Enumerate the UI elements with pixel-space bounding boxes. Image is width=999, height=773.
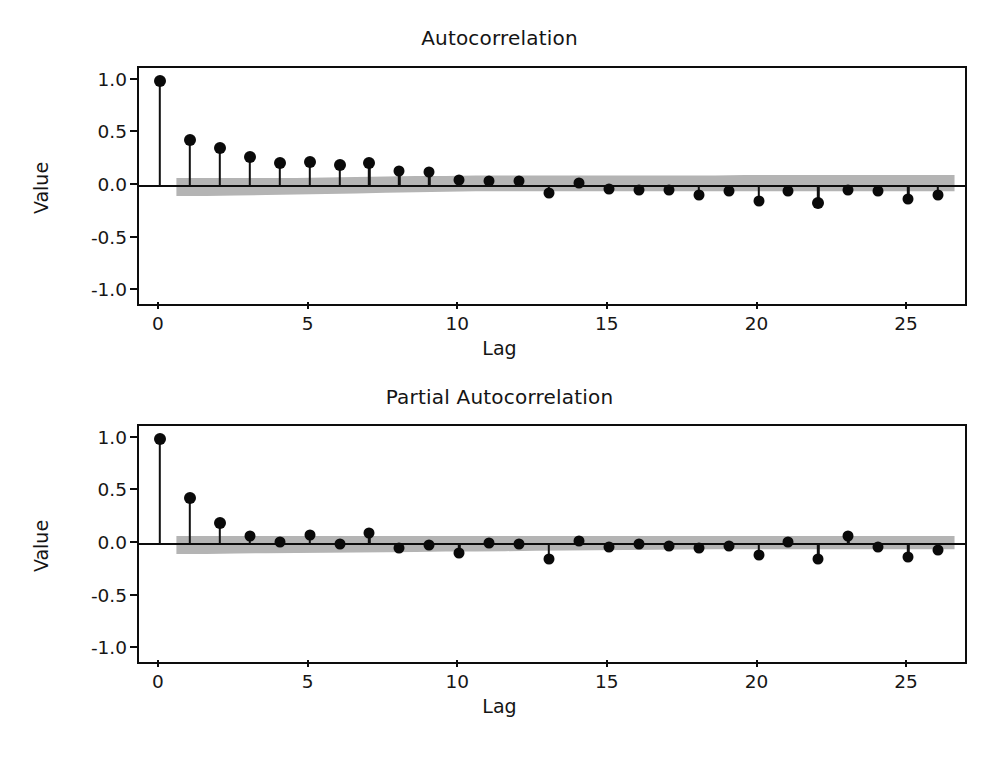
y-tick-mark xyxy=(130,541,137,543)
data-point xyxy=(723,186,734,197)
x-tick-mark xyxy=(905,302,907,309)
stem-line xyxy=(189,498,191,544)
data-point xyxy=(573,535,584,546)
x-tick-mark xyxy=(756,660,758,667)
x-tick-label: 25 xyxy=(894,313,918,334)
figure-acf-pacf: Autocorrelation Value Lag -1.0-0.50.00.5… xyxy=(0,0,999,773)
data-point xyxy=(514,175,525,186)
x-tick-label: 15 xyxy=(595,671,619,692)
x-tick-mark xyxy=(606,660,608,667)
x-tick-mark xyxy=(606,302,608,309)
data-point xyxy=(424,540,435,551)
y-tick-label: 1.0 xyxy=(73,68,127,89)
plot-inner-pacf xyxy=(139,426,965,662)
data-point xyxy=(933,190,944,201)
data-point xyxy=(454,174,465,185)
data-point xyxy=(184,134,196,146)
data-point xyxy=(693,190,704,201)
stem-line xyxy=(159,439,161,544)
data-point xyxy=(873,186,884,197)
data-point xyxy=(903,551,914,562)
y-tick-mark xyxy=(130,183,137,185)
data-point xyxy=(154,433,166,445)
data-point xyxy=(813,553,824,564)
y-tick-mark xyxy=(130,288,137,290)
data-point xyxy=(633,539,644,550)
y-tick-mark xyxy=(130,646,137,648)
data-point xyxy=(903,193,914,204)
y-tick-mark xyxy=(130,594,137,596)
data-point xyxy=(544,553,555,564)
data-point xyxy=(783,536,794,547)
data-point xyxy=(843,185,854,196)
data-point xyxy=(484,537,495,548)
data-point xyxy=(753,195,764,206)
data-point xyxy=(812,197,824,209)
zero-reference-line xyxy=(139,185,965,187)
data-point xyxy=(304,156,316,168)
y-tick-label: -0.5 xyxy=(73,226,127,247)
zero-reference-line xyxy=(139,543,965,545)
data-point xyxy=(603,184,614,195)
data-point xyxy=(723,541,734,552)
data-point xyxy=(184,492,196,504)
panel-title-pacf: Partial Autocorrelation xyxy=(0,385,999,409)
data-point xyxy=(334,539,345,550)
data-point xyxy=(633,185,644,196)
y-tick-label: 0.5 xyxy=(73,479,127,500)
x-tick-label: 10 xyxy=(445,313,469,334)
x-tick-mark xyxy=(756,302,758,309)
y-axis-label-acf: Value xyxy=(30,143,52,233)
y-tick-label: -1.0 xyxy=(73,279,127,300)
y-tick-label: -0.5 xyxy=(73,584,127,605)
y-tick-label: 0.0 xyxy=(73,174,127,195)
data-point xyxy=(304,529,315,540)
x-tick-mark xyxy=(456,302,458,309)
y-tick-mark xyxy=(130,236,137,238)
data-point xyxy=(394,543,405,554)
data-point xyxy=(663,185,674,196)
y-tick-label: 1.0 xyxy=(73,426,127,447)
y-tick-mark xyxy=(130,78,137,80)
data-point xyxy=(783,186,794,197)
data-point xyxy=(424,167,435,178)
panel-partial-autocorrelation: Partial Autocorrelation Value Lag -1.0-0… xyxy=(0,338,999,738)
y-tick-mark xyxy=(130,130,137,132)
y-axis-label-pacf: Value xyxy=(30,501,52,591)
x-tick-mark xyxy=(307,660,309,667)
data-point xyxy=(274,157,286,169)
plot-area-acf xyxy=(137,66,967,306)
x-tick-label: 0 xyxy=(152,313,164,334)
x-tick-label: 15 xyxy=(595,313,619,334)
data-point xyxy=(753,549,764,560)
data-point xyxy=(214,142,226,154)
y-tick-label: 0.5 xyxy=(73,121,127,142)
data-point xyxy=(244,151,256,163)
y-tick-label: 0.0 xyxy=(73,532,127,553)
x-tick-label: 25 xyxy=(894,671,918,692)
data-point xyxy=(573,177,584,188)
x-tick-label: 20 xyxy=(745,671,769,692)
x-tick-label: 5 xyxy=(302,671,314,692)
data-point xyxy=(244,530,255,541)
data-point xyxy=(693,543,704,554)
data-point xyxy=(603,542,614,553)
x-tick-label: 0 xyxy=(152,671,164,692)
data-point xyxy=(334,159,346,171)
y-tick-label: -1.0 xyxy=(73,637,127,658)
data-point xyxy=(154,75,166,87)
plot-area-pacf xyxy=(137,424,967,664)
data-point xyxy=(484,175,495,186)
data-point xyxy=(663,541,674,552)
x-tick-mark xyxy=(157,660,159,667)
x-tick-label: 10 xyxy=(445,671,469,692)
data-point xyxy=(394,166,405,177)
panel-autocorrelation: Autocorrelation Value Lag -1.0-0.50.00.5… xyxy=(0,0,999,375)
data-point xyxy=(873,542,884,553)
data-point xyxy=(933,545,944,556)
data-point xyxy=(843,530,854,541)
data-point xyxy=(274,536,285,547)
plot-inner-acf xyxy=(139,68,965,304)
x-tick-label: 5 xyxy=(302,313,314,334)
data-point xyxy=(363,157,375,169)
